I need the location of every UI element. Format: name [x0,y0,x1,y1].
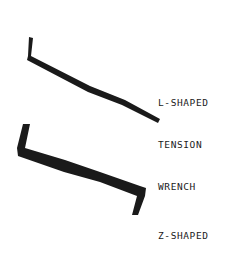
l-shaped-wrench-icon [27,37,160,123]
l-shaped-wrench-label: L-SHAPED TENSION WRENCH [158,68,209,208]
z-shaped-wrench-icon [17,124,146,215]
label-line: Z-SHAPED [158,229,209,243]
label-line: WRENCH [158,180,209,194]
z-shaped-wrench-label: Z-SHAPED TENSION WRENCH [158,201,209,260]
label-line: L-SHAPED [158,96,209,110]
label-line: TENSION [158,138,209,152]
